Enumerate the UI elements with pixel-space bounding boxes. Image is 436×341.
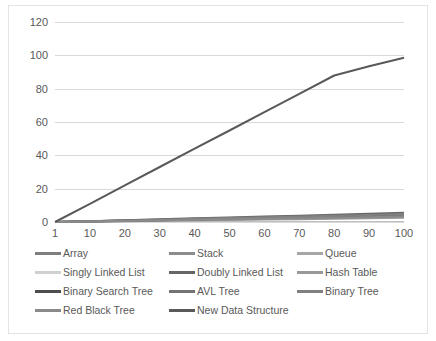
legend-item[interactable]: Red Black Tree [35,301,169,320]
legend-item[interactable]: New Data Structure [169,301,297,320]
legend-swatch-icon [35,252,61,255]
legend-item[interactable]: Array [35,244,169,263]
legend-item-label: Binary Search Tree [63,286,153,297]
legend-item[interactable]: Doubly Linked List [169,263,297,282]
legend-swatch-icon [169,252,195,255]
legend-item-label: Hash Table [325,267,377,278]
y-axis-tick-label: 20 [36,183,48,195]
x-axis-tick-label: 50 [223,227,235,239]
legend-swatch-icon [297,290,323,293]
legend-item[interactable]: Stack [169,244,297,263]
legend-item[interactable]: AVL Tree [169,282,297,301]
x-axis-tick-label: 60 [258,227,270,239]
x-axis-tick-label: 1 [52,227,58,239]
plot-area: 020406080100120 1102030405060708090100 [55,22,404,222]
legend-item-label: Singly Linked List [63,267,145,278]
legend-item-label: Queue [325,248,357,259]
x-axis-tick-label: 10 [84,227,96,239]
y-axis-tick-label: 40 [36,149,48,161]
legend-item[interactable]: Hash Table [297,263,403,282]
legend-item-label: Binary Tree [325,286,379,297]
x-axis-tick-label: 30 [154,227,166,239]
legend-swatch-icon [169,271,195,274]
x-axis-tick-label: 80 [328,227,340,239]
y-axis-tick-label: 100 [30,49,48,61]
legend-swatch-icon [169,309,195,312]
legend-item-label: Doubly Linked List [197,267,283,278]
legend-swatch-icon [35,309,61,312]
legend-item[interactable]: Queue [297,244,403,263]
legend-swatch-icon [169,290,195,293]
y-axis-tick-label: 120 [30,16,48,28]
chart-frame: 020406080100120 1102030405060708090100 A… [8,5,428,334]
x-axis-tick-label: 90 [363,227,375,239]
x-axis-tick-label: 70 [293,227,305,239]
x-axis-tick-label: 40 [188,227,200,239]
legend-item-label: Red Black Tree [63,305,135,316]
legend-item-label: Array [63,248,88,259]
x-axis-tick-label: 100 [395,227,413,239]
chart-legend: ArrayStackQueueSingly Linked ListDoubly … [35,244,403,320]
x-axis-tick-label: 20 [119,227,131,239]
series-line [55,58,404,222]
legend-swatch-icon [35,271,61,274]
legend-item-label: New Data Structure [197,305,289,316]
plot-region: 020406080100120 1102030405060708090100 [55,22,404,222]
legend-swatch-icon [297,271,323,274]
legend-swatch-icon [297,252,323,255]
legend-item[interactable]: Binary Tree [297,282,403,301]
legend-item-label: Stack [197,248,223,259]
legend-item-label: AVL Tree [197,286,240,297]
series-lines [55,22,404,222]
legend-item[interactable]: Binary Search Tree [35,282,169,301]
y-axis-tick-label: 80 [36,83,48,95]
y-axis-tick-label: 0 [42,216,48,228]
legend-item[interactable]: Singly Linked List [35,263,169,282]
y-axis-tick-label: 60 [36,116,48,128]
legend-swatch-icon [35,290,61,293]
